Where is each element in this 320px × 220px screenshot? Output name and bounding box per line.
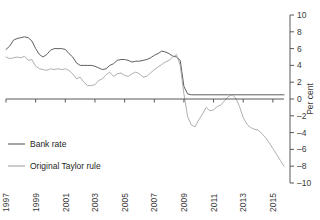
y-axis-title: Per cent xyxy=(305,83,315,115)
x-tick-label: 2015 xyxy=(268,193,278,212)
y-tick-label: 10 xyxy=(297,10,307,20)
x-tick-label: 1997 xyxy=(1,193,11,212)
x-tick-label: 2005 xyxy=(120,193,130,212)
y-tick-label: –10 xyxy=(297,178,311,188)
y-axis xyxy=(290,15,294,183)
legend-label: Original Taylor rule xyxy=(30,161,101,171)
x-tick-label: 2013 xyxy=(238,193,248,212)
x-tick-label: 2003 xyxy=(90,193,100,212)
y-axis-title-group: Per cent xyxy=(305,83,315,115)
legend-item-bank-rate: Bank rate xyxy=(8,139,67,149)
y-tick-label: 6 xyxy=(297,44,302,54)
y-tick-label: –6 xyxy=(297,144,307,154)
x-axis xyxy=(6,99,284,103)
x-tick-label: 2001 xyxy=(61,193,71,212)
legend-label: Bank rate xyxy=(30,139,67,149)
y-tick-label: –8 xyxy=(297,161,307,171)
y-tick-label: 0 xyxy=(297,94,302,104)
y-tick-label: 2 xyxy=(297,77,302,87)
y-tick-label: –4 xyxy=(297,128,307,138)
x-tick-label: 1999 xyxy=(31,193,41,212)
series-line-bank-rate xyxy=(6,37,284,95)
x-tick-labels: 1997199920012003200520072009201120132015 xyxy=(1,193,278,212)
series-line-original-taylor-rule xyxy=(6,54,284,166)
legend: Bank rateOriginal Taylor rule xyxy=(8,139,101,171)
x-tick-label: 2007 xyxy=(149,193,159,212)
line-chart: 1997199920012003200520072009201120132015… xyxy=(0,0,320,220)
x-tick-label: 2009 xyxy=(179,193,189,212)
x-tick-label: 2011 xyxy=(209,193,219,212)
chart-container: 1997199920012003200520072009201120132015… xyxy=(0,0,320,220)
y-tick-label: 4 xyxy=(297,60,302,70)
y-tick-label: 8 xyxy=(297,27,302,37)
legend-item-original-taylor-rule: Original Taylor rule xyxy=(8,161,101,171)
